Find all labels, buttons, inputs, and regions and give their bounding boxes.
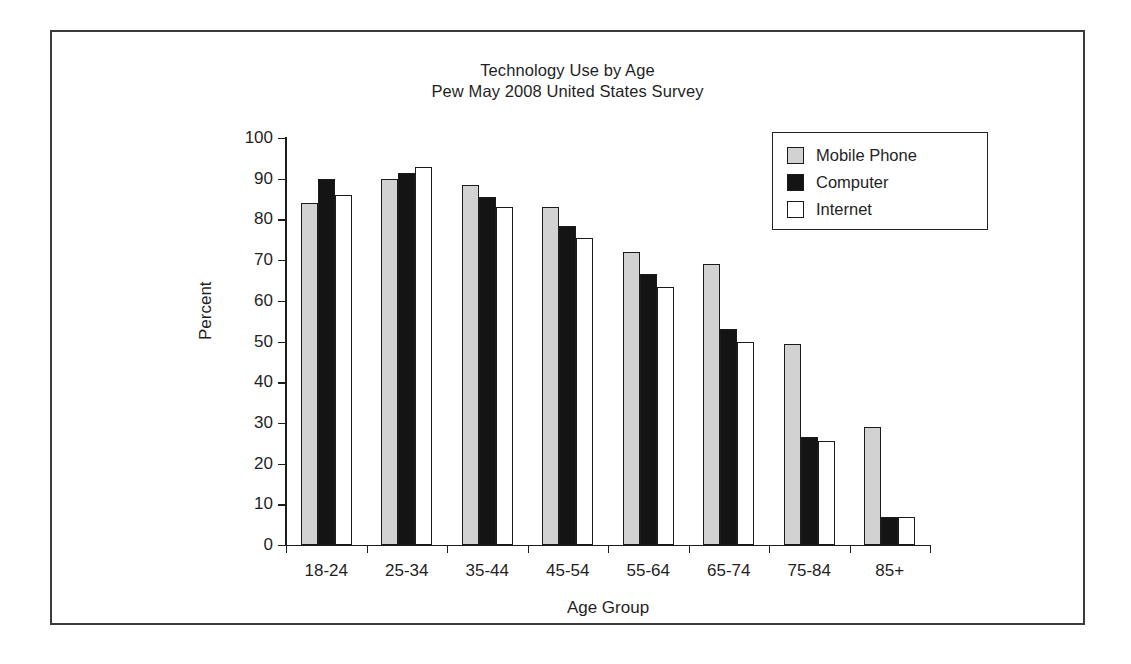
x-axis-tick: [528, 545, 529, 553]
y-axis-tick: [278, 382, 286, 383]
y-axis-tick-label: 90: [254, 169, 273, 189]
bar-computer-35-44: [479, 197, 496, 545]
y-axis-tick-label: 30: [254, 413, 273, 433]
x-axis-tick: [447, 545, 448, 553]
bar-internet-65-74: [737, 342, 754, 546]
legend-swatch-internet-icon: [787, 201, 804, 218]
x-axis-category-label: 85+: [875, 561, 904, 581]
y-axis-tick-label: 20: [254, 454, 273, 474]
x-axis-tick: [367, 545, 368, 553]
chart-title-subtitle: Pew May 2008 United States Survey: [52, 81, 1083, 102]
figure-page: Technology Use by Age Pew May 2008 Unite…: [0, 0, 1131, 664]
chart-legend: Mobile Phone Computer Internet: [772, 132, 988, 230]
legend-swatch-computer-icon: [787, 174, 804, 191]
bar-mobile-75-84: [784, 344, 801, 545]
bar-internet-25-34: [415, 167, 432, 546]
legend-swatch-mobile-phone-icon: [787, 147, 804, 164]
bar-internet-35-44: [496, 207, 513, 545]
y-axis-tick-label: 50: [254, 332, 273, 352]
y-axis-tick-label: 100: [245, 128, 273, 148]
y-axis-tick: [278, 179, 286, 180]
bar-mobile-45-54: [542, 207, 559, 545]
legend-item-internet[interactable]: Internet: [787, 196, 987, 223]
bar-mobile-65-74: [703, 264, 720, 545]
bar-internet-45-54: [576, 238, 593, 545]
y-axis-tick: [278, 464, 286, 465]
bar-mobile-18-24: [301, 203, 318, 545]
bar-computer-45-54: [559, 226, 576, 545]
bar-mobile-25-34: [381, 179, 398, 545]
chart-title: Technology Use by Age Pew May 2008 Unite…: [52, 60, 1083, 102]
bar-mobile-35-44: [462, 185, 479, 545]
y-axis-tick-label: 0: [264, 535, 273, 555]
bar-mobile-55-64: [623, 252, 640, 545]
x-axis-category-label: 25-34: [385, 561, 428, 581]
bar-computer-85+: [881, 517, 898, 545]
x-axis-category-label: 65-74: [707, 561, 750, 581]
x-axis-category-label: 35-44: [466, 561, 509, 581]
x-axis-tick: [850, 545, 851, 553]
x-axis-category-label: 55-64: [627, 561, 670, 581]
legend-label-computer: Computer: [816, 173, 888, 192]
y-axis-tick: [278, 219, 286, 220]
x-axis-tick: [689, 545, 690, 553]
y-axis-tick-label: 40: [254, 372, 273, 392]
legend-label-mobile-phone: Mobile Phone: [816, 146, 917, 165]
bar-internet-75-84: [818, 441, 835, 545]
x-axis-tick: [930, 545, 931, 553]
y-axis-tick: [278, 504, 286, 505]
legend-item-mobile-phone[interactable]: Mobile Phone: [787, 142, 987, 169]
legend-item-computer[interactable]: Computer: [787, 169, 987, 196]
y-axis-tick-label: 80: [254, 209, 273, 229]
y-axis-tick: [278, 342, 286, 343]
bar-internet-55-64: [657, 287, 674, 545]
y-axis-tick: [278, 301, 286, 302]
y-axis-tick: [278, 260, 286, 261]
bar-mobile-85+: [864, 427, 881, 545]
bar-computer-55-64: [640, 274, 657, 545]
x-axis-tick: [769, 545, 770, 553]
x-axis-title: Age Group: [286, 598, 930, 618]
bar-computer-75-84: [801, 437, 818, 545]
x-axis-category-label: 18-24: [305, 561, 348, 581]
bar-internet-18-24: [335, 195, 352, 545]
legend-label-internet: Internet: [816, 200, 872, 219]
bar-computer-65-74: [720, 329, 737, 545]
bar-internet-85+: [898, 517, 915, 545]
y-axis-tick-label: 10: [254, 494, 273, 514]
y-axis-tick-label: 60: [254, 291, 273, 311]
x-axis-category-label: 45-54: [546, 561, 589, 581]
x-axis-tick: [286, 545, 287, 553]
chart-title-main: Technology Use by Age: [52, 60, 1083, 81]
x-axis-category-label: 75-84: [788, 561, 831, 581]
y-axis-tick: [278, 545, 286, 546]
x-axis-tick: [608, 545, 609, 553]
bar-computer-25-34: [398, 173, 415, 545]
y-axis-tick: [278, 423, 286, 424]
y-axis-title: Percent: [196, 281, 216, 340]
y-axis-tick: [278, 138, 286, 139]
bar-computer-18-24: [318, 179, 335, 545]
y-axis-tick-label: 70: [254, 250, 273, 270]
